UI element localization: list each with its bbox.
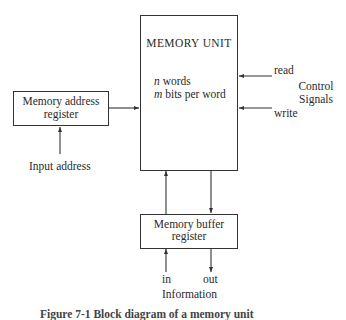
mar-label-line1: Memory address [13, 95, 109, 108]
control-signals-line1: Control [292, 80, 340, 93]
mar-label-line2: register [13, 108, 109, 121]
mbr-label-line2: register [140, 230, 238, 243]
memory-unit-bits: m bits per word [154, 88, 226, 101]
write-label: write [274, 107, 298, 120]
control-signals-line2: Signals [292, 93, 340, 106]
out-label: out [203, 273, 218, 286]
in-label: in [162, 273, 171, 286]
information-label: Information [162, 288, 217, 301]
memory-unit-title: MEMORY UNIT [140, 37, 238, 50]
figure-caption: Figure 7-1 Block diagram of a memory uni… [40, 308, 253, 320]
input-address-label: Input address [29, 160, 91, 173]
bits-text: bits per word [162, 88, 226, 100]
words-text: words [160, 75, 191, 87]
read-label: read [274, 64, 294, 77]
memory-unit-words: n words [154, 75, 191, 88]
